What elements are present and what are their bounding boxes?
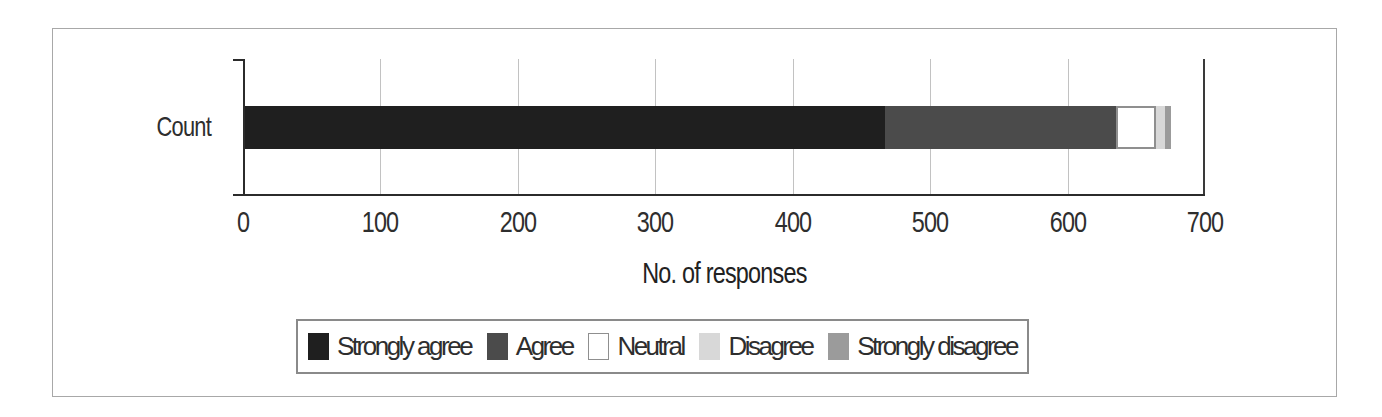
legend-label-agree: Agree xyxy=(516,331,573,362)
legend-entry-strongly-disagree: Strongly disagree xyxy=(828,331,1017,362)
bar-segment-neutral xyxy=(1116,106,1156,149)
legend-label-disagree: Disagree xyxy=(728,331,812,362)
x-tick-label-700: 700 xyxy=(1187,205,1224,239)
figure-border: Count 0100200300400500600700 No. of resp… xyxy=(52,28,1337,397)
legend-label-strongly-agree: Strongly agree xyxy=(337,331,471,362)
x-tick-label-200: 200 xyxy=(499,205,536,239)
legend-entry-disagree: Disagree xyxy=(699,331,812,362)
x-tick-label-100: 100 xyxy=(362,205,399,239)
x-axis-line xyxy=(233,194,1205,196)
bar-segment-agree xyxy=(885,106,1116,149)
bar-segment-strongly-disagree xyxy=(1165,106,1170,149)
legend-label-neutral: Neutral xyxy=(617,331,683,362)
x-axis-title: No. of responses xyxy=(243,256,1205,290)
legend-swatch-strongly-disagree xyxy=(828,333,849,360)
legend-swatch-neutral xyxy=(588,333,609,360)
x-tick-label-500: 500 xyxy=(912,205,949,239)
x-tick-label-400: 400 xyxy=(774,205,811,239)
stacked-bar xyxy=(243,106,1205,149)
legend-label-strongly-disagree: Strongly disagree xyxy=(857,331,1017,362)
legend-entry-agree: Agree xyxy=(487,331,573,362)
x-tick-labels: 0100200300400500600700 xyxy=(243,205,1205,245)
legend-swatch-disagree xyxy=(699,333,720,360)
x-tick-label-0: 0 xyxy=(237,205,249,239)
plot-area xyxy=(243,59,1205,194)
x-tick-label-600: 600 xyxy=(1049,205,1086,239)
y-axis-top-tick xyxy=(233,59,243,61)
y-axis-line xyxy=(243,59,245,194)
bar-segment-disagree xyxy=(1156,106,1166,149)
legend-swatch-strongly-agree xyxy=(308,333,329,360)
category-label: Count xyxy=(119,112,211,142)
figure-canvas: Count 0100200300400500600700 No. of resp… xyxy=(0,0,1382,417)
legend-swatch-agree xyxy=(487,333,508,360)
x-tick-label-300: 300 xyxy=(637,205,674,239)
legend-entry-neutral: Neutral xyxy=(588,331,683,362)
legend: Strongly agreeAgreeNeutralDisagreeStrong… xyxy=(296,319,1029,374)
legend-entry-strongly-agree: Strongly agree xyxy=(308,331,471,362)
bar-segment-strongly-agree xyxy=(243,106,885,149)
